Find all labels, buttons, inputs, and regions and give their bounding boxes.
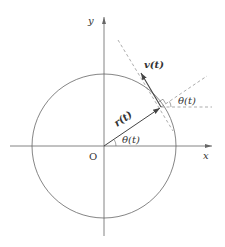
position-vector-label: r(t) — [112, 109, 134, 129]
y-axis-label: y — [87, 15, 94, 26]
angle-arc-at-point — [169, 101, 171, 107]
angle-at-point-label: θ(t) — [178, 95, 196, 106]
circular-motion-diagram: y x O v(t) r(t) θ(t) θ(t) — [0, 0, 225, 247]
velocity-vector-label: v(t) — [144, 59, 164, 70]
angle-at-origin-label: θ(t) — [122, 134, 140, 145]
angle-arc-at-origin — [114, 140, 116, 146]
x-axis-label: x — [203, 150, 209, 161]
velocity-vector-arrow — [141, 73, 161, 107]
origin-label: O — [89, 151, 97, 162]
